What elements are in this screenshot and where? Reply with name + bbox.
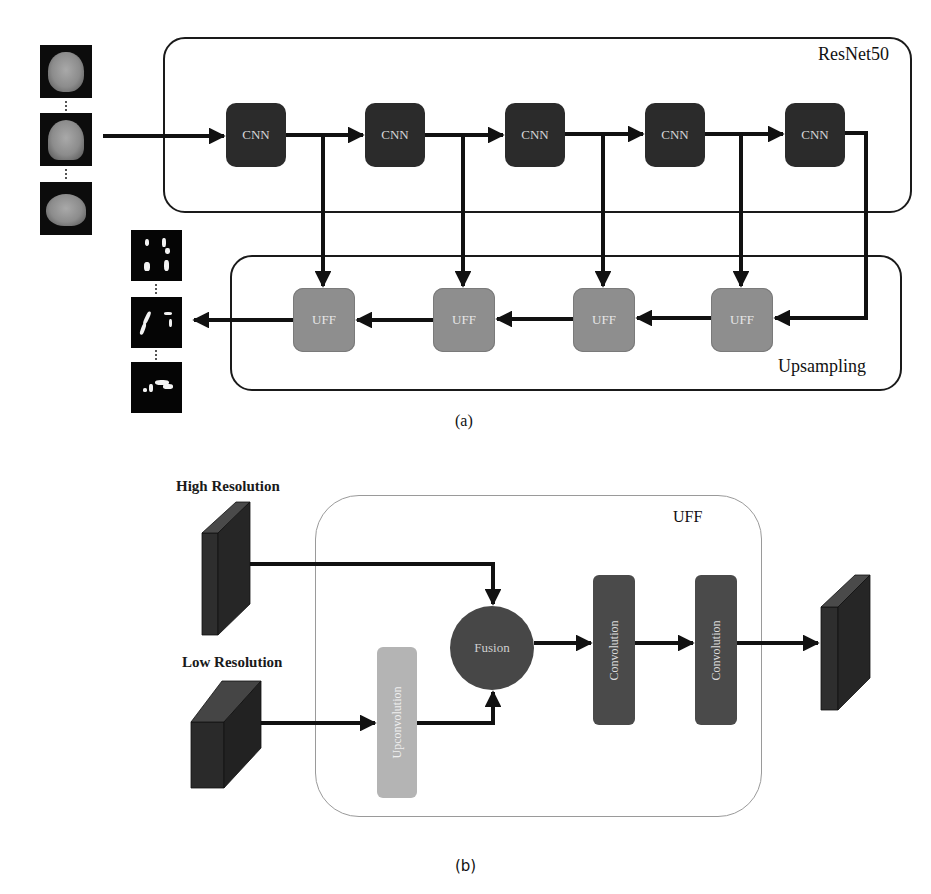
low-resolution-feature-map [191, 681, 261, 788]
high-resolution-feature-map [202, 502, 250, 635]
output-feature-map [821, 575, 870, 710]
diagram-connectors [0, 0, 931, 894]
